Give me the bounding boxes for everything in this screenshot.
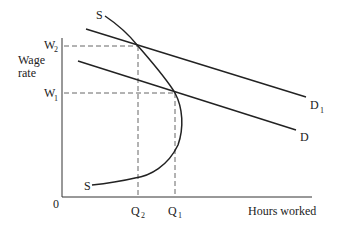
q1-subscript: 1 <box>178 211 182 220</box>
demand-label: D <box>300 130 309 144</box>
x-axis-label: Hours worked <box>248 204 316 218</box>
supply-top-label: S <box>96 8 103 22</box>
demand-shifted-subscript: 1 <box>320 106 324 115</box>
labour-supply-diagram: S S Wage rate W 2 W 1 0 Q 2 Q 1 Hours wo… <box>0 0 337 230</box>
supply-bottom-label: S <box>84 179 91 193</box>
origin-label: 0 <box>53 197 59 211</box>
supply-curve <box>92 16 182 185</box>
demand-curve-d <box>78 61 296 130</box>
demand-curve-d1 <box>86 29 306 97</box>
y-axis-label-line1: Wage <box>18 53 45 67</box>
w1-subscript: 1 <box>54 94 58 103</box>
w2-subscript: 2 <box>54 45 58 54</box>
q1-label: Q <box>168 204 177 218</box>
q2-label: Q <box>131 204 140 218</box>
y-axis-label-line2: rate <box>18 66 36 80</box>
demand-shifted-label: D <box>310 98 319 112</box>
q2-subscript: 2 <box>141 211 145 220</box>
diagram-canvas: S S Wage rate W 2 W 1 0 Q 2 Q 1 Hours wo… <box>0 0 337 230</box>
